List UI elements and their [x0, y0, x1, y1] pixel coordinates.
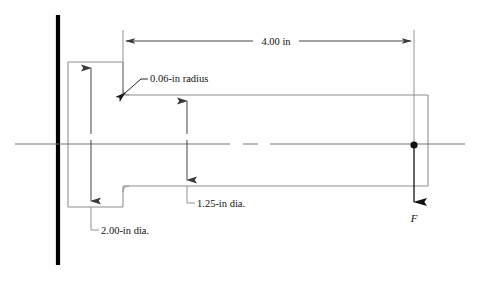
shaft-body: [68, 62, 428, 207]
length-dimension-group: 4.00 in: [123, 30, 414, 145]
small-diameter-label: 1.25-in dia.: [197, 198, 245, 209]
fillet-note-label: 0.06-in radius: [150, 73, 208, 84]
small-diameter-leader: [187, 186, 195, 203]
fillet-lower: [123, 186, 129, 192]
drawing-canvas: 4.00 in 0.06-in radius 2.00-in dia. 1.25…: [0, 0, 485, 281]
small-diameter-dimension-group: 1.25-in dia.: [187, 101, 245, 209]
length-dimension-label: 4.00 in: [261, 36, 291, 47]
force-label: F: [410, 212, 418, 224]
large-diameter-dimension-group: 2.00-in dia.: [91, 68, 149, 236]
fillet-note-group: 0.06-in radius: [125, 73, 208, 93]
applied-force-group: F: [410, 141, 418, 224]
fillet-leader-line: [125, 79, 148, 93]
large-diameter-label: 2.00-in dia.: [101, 225, 149, 236]
large-diameter-leader: [91, 207, 99, 230]
engineering-drawing-figure: 4.00 in 0.06-in radius 2.00-in dia. 1.25…: [0, 0, 485, 281]
